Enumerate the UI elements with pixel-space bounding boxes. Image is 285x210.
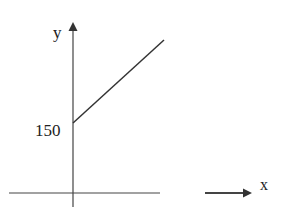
- y-arrow-icon: [69, 22, 78, 31]
- y-axis: [69, 22, 78, 207]
- x-arrow-icon: [243, 189, 252, 198]
- y-intercept-label: 150: [35, 121, 61, 140]
- y-axis-label: y: [53, 23, 62, 42]
- x-axis-label: x: [260, 176, 268, 193]
- data-line: [73, 40, 164, 123]
- x-axis: [9, 189, 252, 198]
- chart: y x 150: [0, 0, 285, 210]
